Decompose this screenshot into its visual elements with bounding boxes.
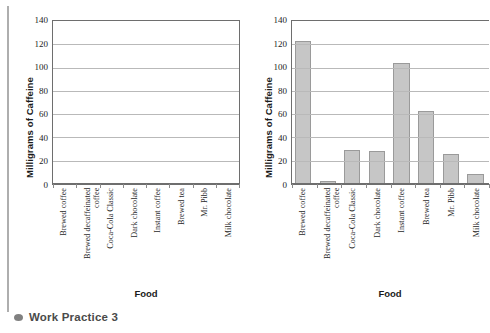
bar-slot — [100, 21, 123, 184]
gridline — [292, 137, 489, 138]
bar-slot — [341, 21, 366, 184]
y-tick-label: 120 — [274, 39, 288, 49]
category-labels-left: Brewed coffeeBrewed decaffeinated coffee… — [52, 188, 240, 283]
bar-slot — [53, 21, 76, 184]
y-tick-label: 120 — [35, 39, 49, 49]
bar — [369, 151, 385, 184]
category-label: Coca-Cola Classic — [106, 188, 115, 249]
y-tick-label: 0 — [44, 180, 49, 190]
y-tick-label: 60 — [278, 109, 287, 119]
bars-left — [53, 21, 239, 184]
category-label: Coca-Cola Classic — [348, 188, 357, 249]
bar — [418, 111, 434, 184]
y-tick-label: 80 — [39, 86, 48, 96]
bar-slot — [169, 21, 192, 184]
caption-label: Work Practice 3 — [29, 311, 118, 323]
y-tick-label: 80 — [278, 86, 287, 96]
category-label: Instant coffee — [397, 188, 406, 233]
page-margin-rule — [7, 6, 9, 312]
bar — [393, 63, 409, 184]
gridline — [53, 161, 239, 162]
bullet-icon — [14, 314, 23, 321]
bar-slot — [216, 21, 239, 184]
category-label: Dark chocolate — [373, 188, 382, 238]
gridline — [53, 91, 239, 92]
category-labels-right: Brewed coffeeBrewed decaffeinated coffee… — [291, 188, 489, 283]
gridline — [53, 68, 239, 69]
y-axis-ticks-right: 020406080100120140 — [265, 20, 287, 185]
category-label: Dark chocolate — [130, 188, 139, 238]
y-tick-label: 140 — [274, 15, 288, 25]
plot-area-right — [291, 20, 489, 185]
bar — [344, 150, 360, 184]
bar-slot — [146, 21, 169, 184]
y-tick-label: 100 — [35, 62, 49, 72]
bars-right — [292, 21, 489, 184]
bar-slot — [292, 21, 317, 184]
bar-slot — [193, 21, 216, 184]
bar-slot — [440, 21, 465, 184]
y-axis-ticks-left: 020406080100120140 — [26, 20, 48, 185]
bar — [295, 41, 311, 184]
y-tick-label: 0 — [283, 180, 288, 190]
bar-slot — [366, 21, 391, 184]
category-label: Brewed tea — [177, 188, 186, 225]
bar-slot — [415, 21, 440, 184]
work-practice-caption: Work Practice 3 — [14, 311, 118, 323]
x-axis-title-right: Food — [291, 288, 489, 299]
y-tick-label: 60 — [39, 109, 48, 119]
category-label: Brewed coffee — [59, 188, 68, 236]
category-label: Mr. Pibb — [447, 188, 456, 217]
category-label: Milk chocolate — [224, 188, 233, 237]
y-tick-label: 20 — [278, 156, 287, 166]
y-tick-label: 40 — [39, 133, 48, 143]
y-tick-label: 140 — [35, 15, 49, 25]
gridline — [292, 44, 489, 45]
bar-slot — [464, 21, 489, 184]
bar — [443, 154, 459, 184]
category-label: Brewed decaffeinated coffee — [323, 188, 341, 280]
bar-slot — [317, 21, 342, 184]
x-axis-title-left: Food — [52, 288, 240, 299]
y-tick-label: 100 — [274, 62, 288, 72]
category-label: Instant coffee — [153, 188, 162, 233]
bar-slot — [76, 21, 99, 184]
y-tick-label: 20 — [39, 156, 48, 166]
bar-slot — [123, 21, 146, 184]
gridline — [53, 114, 239, 115]
gridline — [292, 68, 489, 69]
category-label: Mr. Pibb — [200, 188, 209, 217]
plot-area-left — [52, 20, 240, 185]
gridline — [53, 137, 239, 138]
gridline — [292, 91, 489, 92]
y-tick-label: 40 — [278, 133, 287, 143]
bar-slot — [391, 21, 416, 184]
category-label: Brewed tea — [422, 188, 431, 225]
gridline — [292, 161, 489, 162]
category-label: Brewed decaffeinated coffee — [83, 188, 101, 280]
category-label: Brewed coffee — [298, 188, 307, 236]
category-label: Milk chocolate — [472, 188, 481, 237]
gridline — [292, 114, 489, 115]
gridline — [53, 44, 239, 45]
